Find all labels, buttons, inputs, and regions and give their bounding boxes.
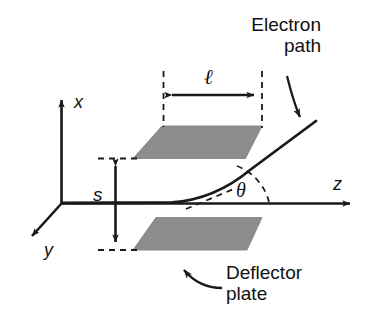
deflection-angle-label: θ <box>236 179 246 201</box>
x-axis-label: x <box>74 92 83 112</box>
deflector-plate-leader-line <box>184 270 222 288</box>
top-deflector-plate <box>133 126 262 159</box>
y-axis-label: y <box>44 240 53 260</box>
deflector-plate-label: Deflector plate <box>226 262 302 305</box>
y-axis-line <box>32 204 62 237</box>
electron-path-leader-line <box>287 76 300 117</box>
bottom-deflector-plate <box>133 218 262 251</box>
bottom-plate-surface <box>133 218 262 251</box>
y-axis <box>32 204 62 237</box>
electron-path-leader-arrow <box>287 76 300 117</box>
deflector-plate-leader-arrow <box>184 270 222 288</box>
z-axis-label: z <box>333 174 342 194</box>
electron-path-label: Electron path <box>251 14 321 57</box>
diagram-canvas <box>0 0 379 333</box>
length-dimension-label: ℓ <box>204 66 213 90</box>
top-plate-surface <box>133 126 262 159</box>
physics-diagram: Electron path Deflector plate x y z s ℓ … <box>0 0 379 333</box>
gap-dimension-label: s <box>93 184 103 205</box>
